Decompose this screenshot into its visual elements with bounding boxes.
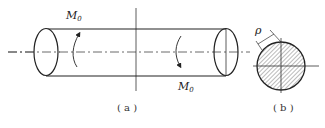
caption-a: ( a ) (117, 102, 137, 113)
rho-extension-2 (270, 30, 281, 42)
moment-label-left: M0 (65, 9, 82, 23)
caption-b: ( b ) (273, 102, 294, 113)
torsion-diagram: M0 M0 ( a ) ρ ( b ) (0, 0, 325, 128)
torque-arrow-left-icon (73, 34, 79, 67)
moment-label-right: M0 (177, 80, 194, 94)
rho-label: ρ (254, 24, 262, 37)
shaft-figure-a: M0 M0 ( a ) (8, 8, 250, 113)
cross-section-figure-b: ρ ( b ) (253, 24, 319, 113)
torque-arrow-right-icon (176, 36, 181, 66)
